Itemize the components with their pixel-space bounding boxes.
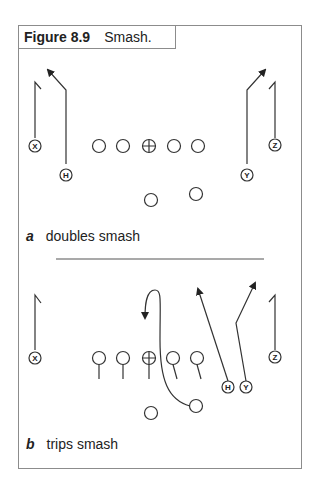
diagram-a	[29, 70, 281, 207]
rb-route	[145, 290, 190, 406]
label-h: H	[225, 383, 231, 392]
running-back	[190, 400, 203, 413]
label-z: Z	[273, 353, 278, 362]
play-diagrams: X H Y Z X H Y Z	[0, 0, 313, 490]
lineman	[168, 140, 181, 153]
caption-b: btrips smash	[26, 436, 118, 452]
caption-a-text: doubles smash	[46, 228, 140, 244]
label-y: Y	[244, 171, 250, 180]
caption-b-text: trips smash	[47, 436, 119, 452]
caption-b-letter: b	[26, 436, 35, 452]
label-h: H	[63, 171, 69, 180]
caption-a: adoubles smash	[26, 228, 140, 244]
h-route	[198, 289, 228, 381]
lineman	[117, 140, 130, 153]
x-route	[35, 82, 41, 138]
quarterback	[145, 407, 158, 420]
label-x: X	[32, 354, 38, 363]
lineman	[93, 140, 106, 153]
running-back	[190, 188, 203, 201]
quarterback	[145, 194, 158, 207]
diagram-b	[29, 283, 281, 420]
caption-a-letter: a	[26, 228, 34, 244]
h-route	[48, 70, 66, 164]
label-z: Z	[273, 141, 278, 150]
x-route	[35, 295, 41, 350]
label-x: X	[32, 142, 38, 151]
label-y: Y	[243, 383, 249, 392]
y-route	[236, 283, 255, 381]
y-route	[247, 70, 265, 164]
z-route	[269, 295, 275, 350]
z-route	[269, 82, 275, 138]
lineman	[192, 140, 205, 153]
